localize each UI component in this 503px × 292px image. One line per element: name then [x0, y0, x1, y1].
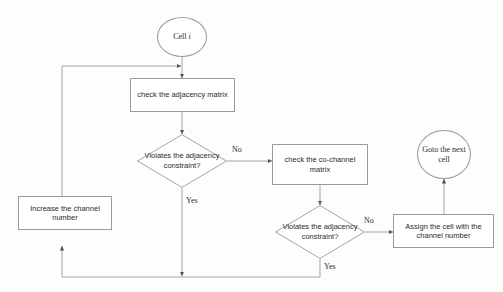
node-check-adjacency-matrix-label: check the adjacency matrix — [137, 90, 227, 99]
flowchart-canvas: Cell i check the adjacency matrix Violat… — [0, 0, 503, 292]
node-goto-next-cell-label: Goto the next cell — [418, 145, 470, 165]
node-goto-next-cell[interactable]: Goto the next cell — [417, 130, 471, 179]
node-assign-cell-channel[interactable]: Assign the cell with the channel number — [393, 214, 494, 248]
node-check-cochannel-matrix[interactable]: check the co-channel matrix — [272, 144, 368, 185]
edge-label-yes-2: Yes — [324, 262, 336, 271]
node-increase-channel-number[interactable]: Increase the channel number — [18, 196, 112, 230]
node-check-adjacency-matrix[interactable]: check the adjacency matrix — [130, 78, 235, 112]
edge-label-no-2: No — [364, 216, 374, 225]
edge-label-yes-1: Yes — [186, 196, 198, 205]
node-decision-adjacency-2[interactable]: Violates the adjacency constraint? — [275, 205, 365, 259]
node-decision-adjacency-1[interactable]: Violates the adjacency constraint? — [137, 134, 227, 188]
node-check-cochannel-matrix-label: check the co-channel matrix — [276, 155, 364, 174]
node-assign-cell-channel-label: Assign the cell with the channel number — [397, 222, 490, 241]
edge-label-no-1: No — [232, 145, 242, 154]
node-decision-adjacency-1-label: Violates the adjacency constraint? — [137, 134, 227, 188]
node-start-cell-label: Cell i — [173, 32, 191, 42]
node-decision-adjacency-2-label: Violates the adjacency constraint? — [275, 205, 365, 259]
node-increase-channel-number-label: Increase the channel number — [22, 204, 108, 223]
node-start-cell[interactable]: Cell i — [157, 17, 207, 57]
